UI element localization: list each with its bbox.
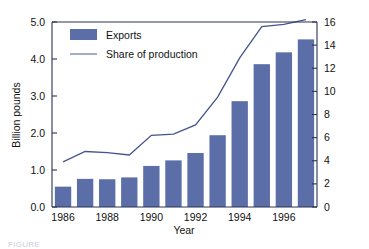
right-tick-label: 16 [324,16,336,28]
bar [55,187,71,207]
bar [99,179,115,207]
x-tick-label: 1990 [140,211,164,223]
left-tick-label: 3.0 [30,90,45,102]
x-tick-label: 1988 [96,211,120,223]
bar [187,153,203,207]
left-tick-label: 1.0 [30,164,45,176]
bar [165,160,181,207]
bar [209,135,225,207]
left-tick-label: 5.0 [30,16,45,28]
bar [121,177,137,207]
right-tick-label: 6 [324,131,330,143]
legend-label-exports: Exports [106,29,142,41]
right-tick-label: 14 [324,39,336,51]
right-tick-label: 8 [324,108,330,120]
bar [232,101,248,207]
legend-swatch-exports [70,29,97,40]
y-axis-title: Billion pounds [10,82,22,147]
left-tick-label: 0.0 [30,201,45,213]
left-tick-label: 4.0 [30,53,45,65]
bottom-axis-ticks: 198619881990199219941996 [51,211,295,223]
x-axis-title: Year [173,224,195,236]
right-tick-label: 2 [324,177,330,189]
right-tick-label: 10 [324,85,336,97]
right-tick-label: 4 [324,154,330,166]
bar [254,64,270,207]
right-tick-label: 12 [324,62,336,74]
x-tick-label: 1992 [184,211,208,223]
bar [298,39,314,207]
bar [77,179,93,207]
left-tick-label: 2.0 [30,127,45,139]
bar [276,52,292,207]
legend-label-share-of-production: Share of production [106,48,198,60]
x-tick-label: 1986 [51,211,75,223]
x-tick-label: 1996 [272,211,296,223]
x-tick-label: 1994 [228,211,252,223]
figure-caption: FIGURE [8,240,363,249]
bar [143,166,159,207]
right-tick-label: 0 [324,201,330,213]
